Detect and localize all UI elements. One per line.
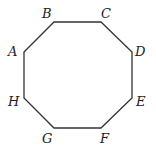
vertex-label-f: F: [99, 131, 110, 146]
octagon-shape: [24, 22, 132, 128]
vertex-label-d: D: [134, 44, 146, 59]
vertex-label-b: B: [41, 6, 52, 21]
vertex-label-a: A: [7, 44, 17, 59]
vertex-label-h: H: [7, 94, 20, 109]
vertex-label-e: E: [135, 94, 146, 109]
vertex-label-c: C: [101, 6, 111, 21]
octagon-diagram: A B C D E F G H: [0, 0, 156, 150]
vertex-label-g: G: [42, 131, 52, 146]
